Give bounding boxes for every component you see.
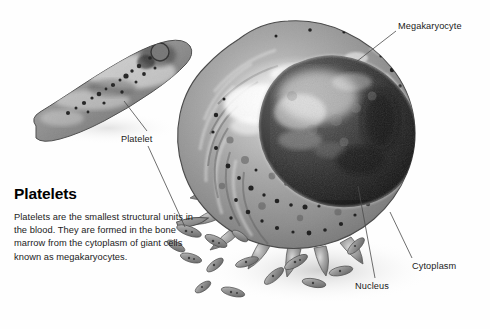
label-platelet: Platelet — [121, 135, 152, 144]
caption-block: Platelets Platelets are the smallest str… — [14, 186, 199, 264]
label-megakaryocyte: Megakaryocyte — [398, 22, 462, 31]
figure-canvas: Megakaryocyte Platelet Cytoplasm Nucleus… — [0, 0, 490, 329]
label-nucleus: Nucleus — [355, 282, 389, 291]
illustration-artwork — [0, 0, 490, 329]
caption-body: Platelets are the smallest structural un… — [14, 211, 199, 265]
caption-title: Platelets — [14, 186, 199, 202]
label-cytoplasm: Cytoplasm — [412, 262, 456, 271]
